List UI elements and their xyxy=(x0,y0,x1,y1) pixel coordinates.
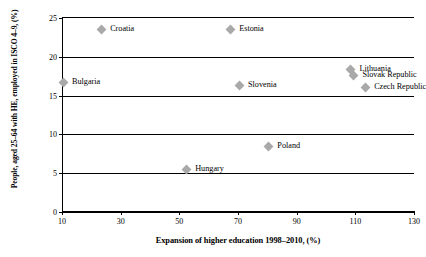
y-tick-label: 0 xyxy=(53,208,57,217)
plot-area: 0510152025 CroatiaEstoniaBulgariaSloveni… xyxy=(62,17,414,211)
diamond-marker-icon xyxy=(96,25,106,35)
data-point-label: Czech Republic xyxy=(374,82,426,91)
y-tick-mark xyxy=(59,173,63,174)
y-tick-mark xyxy=(59,57,63,58)
x-tick-label: 10 xyxy=(58,217,66,226)
y-tick-label: 20 xyxy=(49,52,57,61)
gridline xyxy=(63,96,414,97)
x-tick-label: 130 xyxy=(408,217,420,226)
diamond-marker-icon xyxy=(360,82,370,92)
x-tick-mark xyxy=(297,211,298,215)
x-tick-label: 70 xyxy=(234,217,242,226)
y-tick-label: 25 xyxy=(49,14,57,23)
data-point-label: Slovak Republic xyxy=(362,70,416,79)
y-tick-mark xyxy=(59,134,63,135)
x-tick-mark xyxy=(179,211,180,215)
diamond-marker-icon xyxy=(58,77,68,87)
y-tick-label: 5 xyxy=(53,169,57,178)
data-point-label: Hungary xyxy=(195,164,224,173)
data-point-label: Estonia xyxy=(239,24,264,33)
x-tick-mark xyxy=(121,211,122,215)
y-tick-mark xyxy=(59,96,63,97)
y-tick-label: 15 xyxy=(49,91,57,100)
x-tick-mark xyxy=(414,211,415,215)
data-point-label: Bulgaria xyxy=(72,77,100,86)
x-tick-label: 30 xyxy=(117,217,125,226)
x-tick-mark xyxy=(355,211,356,215)
gridline xyxy=(63,57,414,58)
data-point-label: Slovenia xyxy=(248,80,277,89)
gridline xyxy=(63,134,414,135)
gridline xyxy=(63,173,414,174)
x-tick-label: 90 xyxy=(293,217,301,226)
x-tick-label: 110 xyxy=(349,217,361,226)
data-point-label: Poland xyxy=(277,141,300,150)
diamond-marker-icon xyxy=(263,141,273,151)
y-tick-label: 10 xyxy=(49,130,57,139)
x-tick-mark xyxy=(238,211,239,215)
x-tick-label: 50 xyxy=(175,217,183,226)
y-tick-mark xyxy=(59,18,63,19)
y-axis-title: People, aged 25–64 with HE, employed in … xyxy=(0,0,30,199)
data-point-label: Croatia xyxy=(110,24,134,33)
x-axis-title: Expansion of higher education 1998–2010,… xyxy=(62,236,414,245)
x-tick-mark xyxy=(62,211,63,215)
diamond-marker-icon xyxy=(234,81,244,91)
diamond-marker-icon xyxy=(225,25,235,35)
